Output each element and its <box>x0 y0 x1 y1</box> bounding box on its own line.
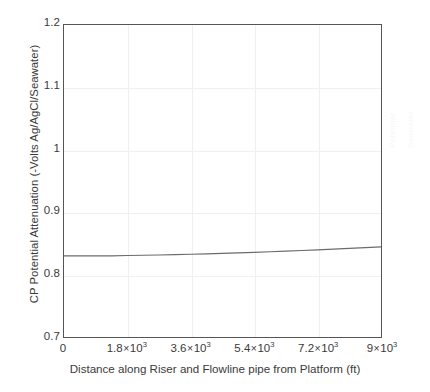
data-line-series <box>64 25 381 337</box>
y-tick-label: 1 <box>54 142 61 154</box>
chart-figure: 0.7 0.8 0.9 1 1.1 1.2 CP Potential Atten… <box>0 0 430 392</box>
y-tick-label: 1.2 <box>44 16 60 28</box>
series-line-cp-potential <box>64 247 381 256</box>
x-tick-label: 5.4×103 <box>234 342 274 354</box>
faint-residual-text: Potential Seawater <box>388 48 428 148</box>
plot-area <box>63 24 382 338</box>
x-tick-label: 0 <box>60 342 66 354</box>
y-axis-title: CP Potential Attenuation (-Volts Ag/AgCl… <box>28 24 40 324</box>
x-tick-label: 1.8×103 <box>107 342 147 354</box>
faint-text-column-2: Seawater <box>406 48 415 148</box>
x-tick-label: 3.6×103 <box>171 342 211 354</box>
x-tick-label: 9×103 <box>367 342 398 354</box>
y-tick-label: 0.7 <box>44 330 60 342</box>
y-tick-label: 0.8 <box>44 267 60 279</box>
faint-text-column-1: Potential <box>388 48 397 148</box>
x-tick-label: 7.2×103 <box>298 342 338 354</box>
y-tick-label: 1.1 <box>44 79 60 91</box>
x-axis-title: Distance along Riser and Flowline pipe f… <box>0 362 430 375</box>
y-tick-label: 0.9 <box>44 204 60 216</box>
